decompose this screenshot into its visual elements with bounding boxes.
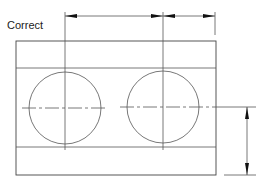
arrow-right-icon [151,14,163,18]
vertical-dimension [216,107,256,175]
arrow-left-icon [163,14,175,18]
technical-drawing [0,0,267,184]
arrow-up-icon [245,107,249,119]
arrow-right-icon [203,14,215,18]
horizontal-dimension [65,14,215,18]
arrow-down-icon [245,163,249,175]
right-hole [120,71,216,143]
arrow-left-icon [65,14,77,18]
